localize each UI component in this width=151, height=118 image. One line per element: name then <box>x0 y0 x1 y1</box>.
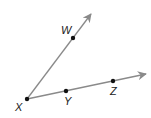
label-x: X <box>14 101 23 113</box>
ray-diagram: X W Y Z <box>0 0 151 118</box>
ray-xz <box>27 74 146 99</box>
point-z <box>111 79 115 83</box>
label-w: W <box>61 24 73 36</box>
label-y: Y <box>64 95 72 107</box>
ray-xw <box>27 14 91 99</box>
point-y <box>64 89 68 93</box>
point-w <box>71 36 75 40</box>
label-z: Z <box>109 85 118 97</box>
point-x <box>25 97 29 101</box>
